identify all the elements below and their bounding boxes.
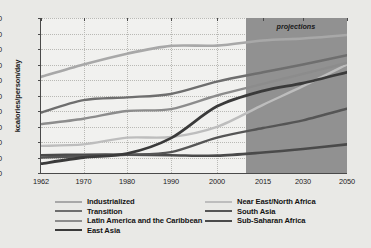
series-line (41, 65, 347, 146)
legend-label: Latin America and the Caribbean (87, 216, 202, 225)
x-tick-label: 2015 (255, 177, 271, 186)
x-tick-mark (171, 18, 172, 21)
y-tick-mark (38, 80, 41, 81)
x-tick-label: 2030 (295, 177, 311, 186)
x-tick-label: 1962 (33, 177, 49, 186)
y-tick-mark (38, 142, 41, 143)
legend-label: Transition (87, 207, 122, 216)
legend-label: South Asia (237, 207, 275, 216)
legend-swatch-line-icon (55, 229, 82, 231)
chart-plot-area: projections kcalories/person/day 0100200… (40, 18, 347, 174)
series-line (41, 63, 347, 124)
legend-swatch-line-icon (55, 210, 82, 212)
x-tick-label: 1970 (75, 177, 91, 186)
y-tick-mark (38, 111, 41, 112)
y-tick-label: 400 (0, 107, 2, 116)
y-tick-label: 900 (0, 29, 2, 38)
x-tick-label: 1990 (163, 177, 179, 186)
legend-label: East Asia (87, 226, 120, 235)
x-tick-mark (127, 18, 128, 21)
series-lines (41, 18, 347, 173)
x-tick-mark (84, 18, 85, 21)
legend-item[interactable]: Transition (55, 207, 122, 216)
y-tick-label: 600 (0, 76, 2, 85)
y-tick-label: 700 (0, 60, 2, 69)
y-tick-label: 300 (0, 122, 2, 131)
y-tick-label: 200 (0, 138, 2, 147)
legend-swatch-line-icon (205, 210, 232, 212)
legend-swatch-line-icon (205, 201, 232, 203)
y-tick-mark (38, 96, 41, 97)
x-tick-mark (347, 18, 348, 21)
y-tick-label: 800 (0, 45, 2, 54)
chart-legend: IndustrializedTransitionLatin America an… (0, 196, 371, 246)
y-axis-title: kcalories/person/day (13, 59, 22, 132)
plot-surface: projections (41, 18, 347, 173)
y-tick-mark (38, 158, 41, 159)
legend-item[interactable]: Sub-Saharan Africa (205, 216, 305, 225)
y-tick-mark (38, 173, 41, 174)
series-line (41, 35, 347, 77)
legend-swatch-line-icon (205, 220, 232, 222)
y-tick-mark (38, 34, 41, 35)
legend-label: Near East/North Africa (237, 197, 316, 206)
legend-item[interactable]: East Asia (55, 226, 120, 235)
legend-swatch-line-icon (55, 201, 82, 203)
legend-label: Industrialized (87, 197, 135, 206)
x-tick-label: 2050 (339, 177, 355, 186)
chart-screenshot: projections kcalories/person/day 0100200… (0, 0, 371, 248)
y-tick-label: 100 (0, 153, 2, 162)
y-tick-mark (38, 49, 41, 50)
x-tick-mark (41, 18, 42, 21)
y-tick-label: 500 (0, 91, 2, 100)
legend-item[interactable]: Latin America and the Caribbean (55, 216, 202, 225)
y-tick-label: 0 (0, 169, 2, 178)
legend-label: Sub-Saharan Africa (237, 216, 305, 225)
legend-item[interactable]: Near East/North Africa (205, 197, 316, 206)
x-tick-mark (217, 18, 218, 21)
legend-swatch-line-icon (55, 220, 82, 222)
y-tick-label: 1000 (0, 14, 2, 23)
x-tick-label: 1980 (119, 177, 135, 186)
y-tick-mark (38, 127, 41, 128)
x-tick-mark (303, 18, 304, 21)
legend-item[interactable]: South Asia (205, 207, 275, 216)
x-tick-label: 2000 (209, 177, 225, 186)
legend-item[interactable]: Industrialized (55, 197, 135, 206)
y-tick-mark (38, 65, 41, 66)
x-tick-mark (263, 18, 264, 21)
